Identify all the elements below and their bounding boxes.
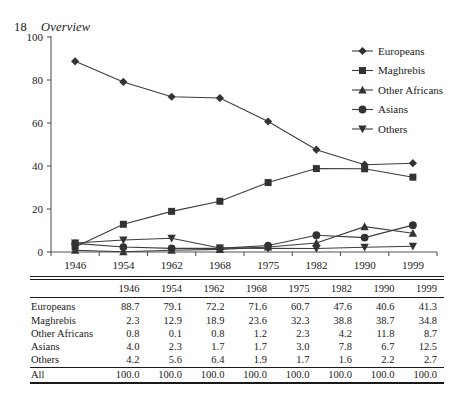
- x-axis-tick-label: 1982: [305, 259, 327, 271]
- table-cell: 18.9: [189, 314, 232, 327]
- y-axis-tick-label: 60: [32, 117, 44, 129]
- legend-item-others: Others: [352, 123, 407, 135]
- column-header-1999: 1999: [401, 280, 444, 298]
- table-row: All100.0100.0100.0100.0100.0100.0100.010…: [30, 367, 444, 381]
- table-cell: 12.9: [146, 314, 189, 327]
- table-cell: 1.7: [231, 340, 274, 353]
- table-cell: 0.8: [189, 327, 232, 340]
- table-cell: 1.2: [231, 327, 274, 340]
- column-header-1954: 1954: [146, 280, 189, 298]
- table-cell: 2.3: [274, 327, 317, 340]
- table-row: Other Africans0.80.10.81.22.34.211.88.7: [30, 327, 444, 340]
- column-header-1990: 1990: [359, 280, 402, 298]
- column-header-1968: 1968: [231, 280, 274, 298]
- column-header-1962: 1962: [189, 280, 232, 298]
- table-cell: 0.1: [146, 327, 189, 340]
- table-cell: 88.7: [104, 297, 147, 313]
- legend-item-asians: Asians: [352, 103, 408, 115]
- table-cell: 1.6: [316, 353, 359, 367]
- table-rule-top-outer: [30, 276, 444, 277]
- table-cell: 7.8: [316, 340, 359, 353]
- legend-label: Europeans: [378, 45, 424, 57]
- table-cell: 38.8: [316, 314, 359, 327]
- table-cell: 100.0: [189, 367, 232, 381]
- data-table: 19461954196219681975198219901999European…: [30, 280, 444, 381]
- table-cell: 71.6: [231, 297, 274, 313]
- x-axis-tick-label: 1954: [112, 259, 135, 271]
- table-row: Europeans88.779.172.271.660.747.640.641.…: [30, 297, 444, 313]
- table-cell: 38.7: [359, 314, 402, 327]
- table-cell: 79.1: [146, 297, 189, 313]
- table-cell: 100.0: [274, 367, 317, 381]
- table-cell: 12.5: [401, 340, 444, 353]
- row-label: Others: [30, 353, 104, 367]
- line-chart: 0204060801001946195419621968197519821990…: [0, 33, 472, 271]
- table-cell: 34.8: [401, 314, 444, 327]
- table-row: Asians4.02.31.71.73.07.86.712.5: [30, 340, 444, 353]
- table-cell: 60.7: [274, 297, 317, 313]
- legend-item-europeans: Europeans: [352, 45, 424, 57]
- table-row: Maghrebis2.312.918.923.632.338.838.734.8: [30, 314, 444, 327]
- y-axis-tick-label: 20: [32, 203, 44, 215]
- table-row: Others4.25.66.41.91.71.62.22.7: [30, 353, 444, 367]
- legend-label: Other Africans: [378, 84, 443, 96]
- legend-label: Asians: [378, 103, 408, 115]
- x-axis-tick-label: 1999: [402, 259, 425, 271]
- table-cell: 1.9: [231, 353, 274, 367]
- table-cell: 100.0: [104, 367, 147, 381]
- row-label: Asians: [30, 340, 104, 353]
- table-header-row: 19461954196219681975198219901999: [30, 280, 444, 298]
- table-cell: 1.7: [274, 353, 317, 367]
- x-axis-tick-label: 1946: [64, 259, 87, 271]
- table-cell: 72.2: [189, 297, 232, 313]
- table-cell: 2.7: [401, 353, 444, 367]
- table-cell: 2.3: [104, 314, 147, 327]
- row-label: Other Africans: [30, 327, 104, 340]
- legend-item-maghrebis: Maghrebis: [352, 64, 425, 76]
- legend-label: Maghrebis: [378, 64, 425, 76]
- y-axis-tick-label: 0: [38, 246, 44, 258]
- table-cell: 5.6: [146, 353, 189, 367]
- column-header-1975: 1975: [274, 280, 317, 298]
- table-cell: 100.0: [359, 367, 402, 381]
- x-axis-tick-label: 1968: [209, 259, 232, 271]
- table-cell: 32.3: [274, 314, 317, 327]
- table-cell: 47.6: [316, 297, 359, 313]
- table-cell: 4.2: [104, 353, 147, 367]
- table-cell: 4.0: [104, 340, 147, 353]
- table-cell: 40.6: [359, 297, 402, 313]
- y-axis-tick-label: 40: [32, 160, 44, 172]
- table-cell: 23.6: [231, 314, 274, 327]
- row-label: Maghrebis: [30, 314, 104, 327]
- y-axis-tick-label: 100: [27, 33, 44, 43]
- x-axis-tick-label: 1990: [354, 259, 377, 271]
- table-cell: 100.0: [401, 367, 444, 381]
- chart-svg: 0204060801001946195419621968197519821990…: [0, 33, 472, 271]
- table-cell: 2.3: [146, 340, 189, 353]
- data-table-container: 19461954196219681975198219901999European…: [30, 276, 444, 384]
- table-cell: 41.3: [401, 297, 444, 313]
- table-cell: 6.4: [189, 353, 232, 367]
- x-axis-tick-label: 1975: [257, 259, 280, 271]
- table-cell: 2.2: [359, 353, 402, 367]
- column-header-1946: 1946: [104, 280, 147, 298]
- row-label: All: [30, 367, 104, 381]
- y-axis-tick-label: 80: [32, 74, 44, 86]
- table-cell: 100.0: [316, 367, 359, 381]
- table-cell: 1.7: [189, 340, 232, 353]
- table-cell: 8.7: [401, 327, 444, 340]
- table-corner-cell: [30, 280, 104, 298]
- column-header-1982: 1982: [316, 280, 359, 298]
- table-rule-bottom-outer: [30, 382, 444, 383]
- row-label: Europeans: [30, 297, 104, 313]
- table-cell: 100.0: [146, 367, 189, 381]
- table-cell: 100.0: [231, 367, 274, 381]
- x-axis-tick-label: 1962: [161, 259, 183, 271]
- table-cell: 3.0: [274, 340, 317, 353]
- table-cell: 11.8: [359, 327, 402, 340]
- legend-item-other-africans: Other Africans: [352, 84, 443, 96]
- table-cell: 0.8: [104, 327, 147, 340]
- page-canvas: 18 Overview 0204060801001946195419621968…: [0, 0, 472, 404]
- legend-label: Others: [378, 123, 407, 135]
- table-cell: 4.2: [316, 327, 359, 340]
